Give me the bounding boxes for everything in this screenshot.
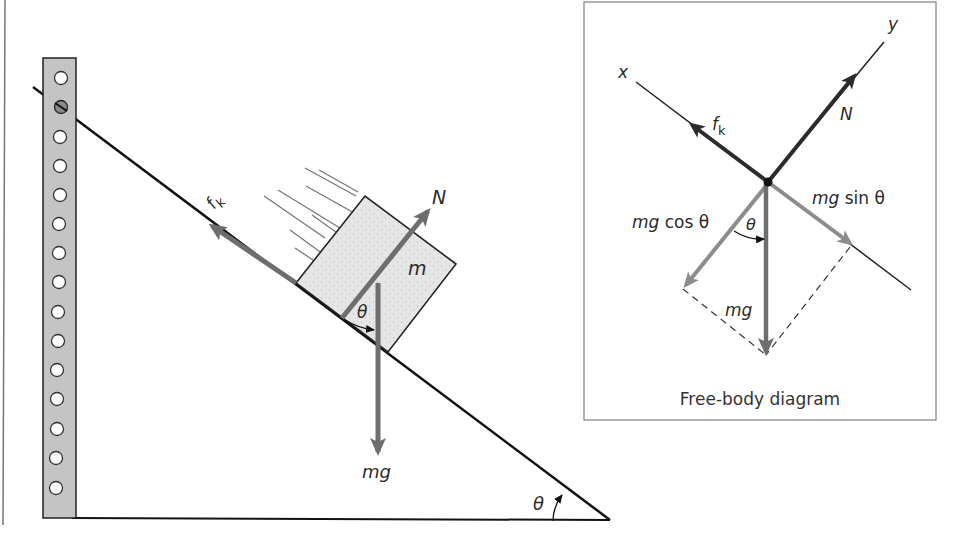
- weight-label: mg: [362, 461, 391, 482]
- inclined-plane-figure: fk N m mg θ θ x y fk: [0, 0, 955, 555]
- fbd-caption: Free-body diagram: [680, 389, 840, 409]
- page-edge-line: [3, 0, 5, 525]
- pin-bolt-icon: [55, 101, 68, 114]
- fbd-normal-label: N: [840, 104, 853, 124]
- block-angle-label: θ: [357, 302, 368, 322]
- fbd-origin-dot: [764, 178, 773, 187]
- mass-label: m: [408, 257, 427, 279]
- base-angle-arc: [553, 495, 562, 521]
- incline-diagram: fk N m mg θ θ: [33, 58, 610, 521]
- fbd-weight-label: mg: [725, 300, 753, 320]
- panel-border: [584, 2, 936, 420]
- friction-vector: [212, 226, 296, 283]
- y-axis-label: y: [887, 14, 899, 34]
- fbd-angle-label: θ: [746, 215, 756, 234]
- perpendicular-component-label: mg cos θ: [632, 212, 709, 232]
- normal-label: N: [432, 186, 446, 208]
- incline-surface: [33, 87, 610, 520]
- friction-label: fk: [201, 189, 229, 215]
- ground-line: [72, 518, 610, 520]
- free-body-diagram-panel: x y fk N mg sin θ mg cos θ mg: [584, 2, 936, 420]
- x-axis-label: x: [617, 62, 629, 82]
- parallel-component-label: mg sin θ: [812, 188, 885, 208]
- support-post: [43, 58, 76, 518]
- base-angle-label: θ: [533, 493, 544, 514]
